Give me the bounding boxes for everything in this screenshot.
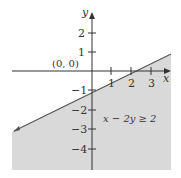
x-axis-label: x <box>163 72 170 85</box>
inequality-label: x − 2y ≥ 2 <box>103 113 157 124</box>
y-tick-label: −3 <box>71 123 87 136</box>
y-axis-arrow-icon <box>89 12 95 19</box>
x-tick-label: 3 <box>148 77 155 90</box>
y-tick-label: 1 <box>78 46 85 59</box>
x-tick-label: 2 <box>128 77 135 90</box>
y-axis-label: y <box>81 6 89 19</box>
inequality-graph: 1 2 3 x y 2 1 −1 −2 −3 −4 (0, 0) x − 2y … <box>0 0 181 178</box>
origin-label: (0, 0) <box>52 58 79 69</box>
y-tick-label: −1 <box>71 84 87 97</box>
x-tick-label: 1 <box>108 77 115 90</box>
y-tick-label: −4 <box>71 143 87 156</box>
y-tick-label: 2 <box>78 27 85 40</box>
y-tick-label: −2 <box>71 104 87 117</box>
